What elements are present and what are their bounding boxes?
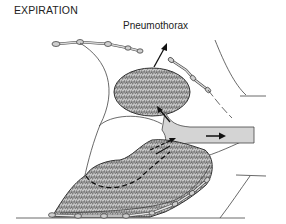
upper-rib-chain [52,40,143,54]
pneumothorax-arrow [154,43,167,67]
upper-lung [114,68,190,116]
pneumothorax-expiration-diagram [0,0,286,224]
lower-lung [52,140,212,217]
